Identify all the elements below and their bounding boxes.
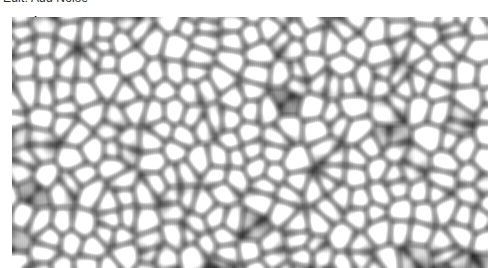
left-margin [0,17,12,268]
noise-texture-canvas [12,17,488,268]
page-title: Edit: Add Noise [3,0,88,5]
title-bar: Edit: Add Noise [0,0,488,16]
noise-preview-panel [12,17,488,268]
